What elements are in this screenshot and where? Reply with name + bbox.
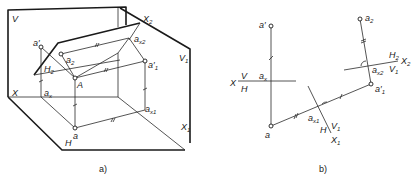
label-a-x2: ax2: [372, 65, 384, 76]
line-a-ax1: [75, 110, 145, 128]
label-plane-h: H: [241, 84, 248, 94]
label-a-x1: ax1: [308, 113, 319, 124]
point-a1-prime: [369, 82, 373, 86]
caption-b: b): [319, 164, 327, 174]
label-axis-x2: X2: [142, 14, 153, 25]
plane-v1-outline: [120, 8, 190, 143]
label-axis-x1: X1: [330, 135, 340, 146]
point-a2: [59, 52, 63, 56]
label-a: a: [265, 130, 270, 140]
point-a: [73, 126, 77, 130]
label-axis-x: X: [229, 78, 237, 88]
panel-b: a′ ax a ax1 a′1 ax2 a2 X V H X1 H V1 X2 …: [229, 13, 411, 174]
label-a-x: ax: [44, 88, 53, 99]
plane-h-outline: [8, 97, 185, 150]
descriptive-geometry-figure: V V1 H H2 X X1 X2 a′ a2 A ax2 a′1 ax ax1…: [0, 0, 417, 183]
label-a2: a2: [365, 13, 374, 24]
line-box-top: [75, 53, 118, 78]
point-a: [269, 124, 273, 128]
axis-x1: [118, 97, 185, 150]
label-axis-x1: X1: [180, 122, 190, 133]
label-plane-h2: H2: [44, 64, 55, 75]
caption-a: a): [99, 164, 107, 174]
label-a-x: ax: [259, 71, 268, 82]
point-a2: [358, 17, 362, 21]
label-a2: a2: [66, 55, 75, 66]
label-axis-x2: X2: [400, 56, 411, 67]
panel-a: V V1 H H2 X X1 X2 a′ a2 A ax2 a′1 ax ax1…: [8, 7, 190, 174]
point-a-prime: [269, 24, 273, 28]
label-plane-h-x1: H: [320, 125, 327, 135]
tick-mark: [104, 68, 106, 72]
label-a1-prime: a′1: [375, 84, 385, 95]
label-plane-h: H: [65, 138, 72, 148]
label-plane-v1: V1: [179, 53, 188, 64]
label-a: a: [73, 131, 78, 141]
label-a1-prime: a′1: [148, 60, 158, 71]
label-plane-h2: H2: [389, 50, 400, 61]
right-angle-mark: [361, 61, 366, 66]
tick-mark: [95, 43, 97, 47]
line-ax-a: [41, 97, 75, 128]
label-plane-v1-x1: V1: [331, 121, 340, 132]
plane-v-outline: [8, 7, 126, 97]
label-axis-x: X: [11, 88, 19, 98]
label-a-x1: ax1: [145, 104, 156, 115]
line-a-a1-prime: [271, 84, 371, 126]
point-a1-prime: [143, 59, 147, 63]
line-a1-prime-a2: [360, 19, 371, 84]
label-plane-v: V: [241, 71, 248, 81]
label-a-prime: a′: [259, 20, 266, 30]
label-plane-v1-x2: V1: [389, 64, 398, 75]
label-a-x2: ax2: [134, 34, 146, 45]
tick-mark: [113, 118, 115, 122]
label-plane-v: V: [12, 14, 19, 24]
label-a-prime: a′: [33, 38, 40, 48]
label-A: A: [76, 80, 83, 90]
line-A-a1prime: [75, 61, 145, 78]
